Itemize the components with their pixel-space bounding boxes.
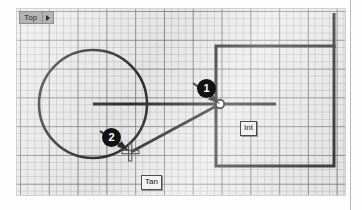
snap-tooltip-tangent: Tan [141,175,162,190]
tangent-line-entity[interactable] [131,104,220,152]
page-gutter-rule [350,0,351,210]
caret-right-icon[interactable] [46,15,50,21]
snap-tooltip-intersection: Int [240,121,257,136]
drawing-canvas[interactable] [17,9,345,195]
viewport-label-text: Top [24,14,38,22]
page-background: Top Int Tan 1 2 [0,0,362,210]
viewport-label[interactable]: Top [19,11,54,24]
cad-viewport[interactable]: Top Int Tan 1 2 [17,9,345,195]
callout-badge-1: 1 [198,80,215,97]
viewport-label-divider [42,12,43,23]
callout-badge-2: 2 [103,129,120,146]
rectangle-entity[interactable] [216,46,334,166]
